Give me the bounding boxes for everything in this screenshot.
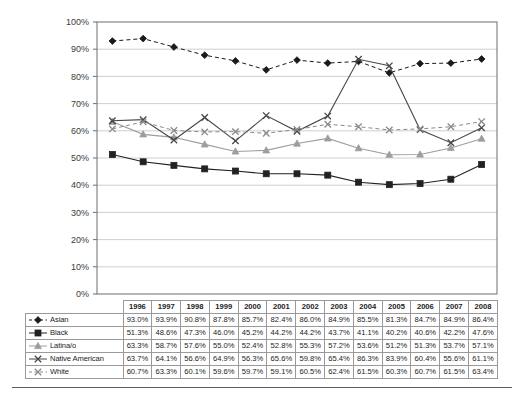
legend-row-white: White <box>26 366 124 379</box>
table-cell: 51.3% <box>411 340 440 353</box>
table-cell: 40.6% <box>411 327 440 340</box>
gridlines <box>97 49 497 267</box>
table-col-header-2003: 2003 <box>325 301 354 314</box>
table-cell: 60.3% <box>382 366 411 379</box>
data-point-marker <box>324 60 331 67</box>
table-cell: 86.3% <box>353 353 382 366</box>
table-cell: 47.3% <box>181 327 210 340</box>
y-axis-tick-label: 50% <box>71 153 89 163</box>
data-point-marker <box>35 330 41 336</box>
table-cell: 42.2% <box>440 327 469 340</box>
table-cell: 64.1% <box>152 353 181 366</box>
line-chart: 0%10%20%30%40%50%60%70%80%90%100% <box>0 0 524 300</box>
series-line <box>112 154 481 184</box>
table-cell: 87.8% <box>209 314 238 327</box>
table-cell: 63.4% <box>469 366 498 379</box>
data-point-marker <box>294 171 300 177</box>
data-point-marker <box>263 66 270 73</box>
y-axis-tick-labels: 0%10%20%30%40%50%60%70%80%90%100% <box>66 17 89 299</box>
data-point-marker <box>417 60 424 67</box>
data-point-marker <box>140 35 147 42</box>
data-series-group <box>109 35 485 187</box>
y-axis-tick-label: 20% <box>71 235 89 245</box>
y-axis-tick-label: 30% <box>71 208 89 218</box>
table-col-header-2007: 2007 <box>440 301 469 314</box>
table-col-header-1999: 1999 <box>209 301 238 314</box>
y-axis-ticks <box>93 22 97 294</box>
table-cell: 59.7% <box>238 366 267 379</box>
table-col-header-2008: 2008 <box>469 301 498 314</box>
data-point-marker <box>35 317 42 324</box>
table-row: Asian93.0%93.9%90.8%87.8%85.7%82.4%86.0%… <box>26 314 498 327</box>
data-point-marker <box>140 159 146 165</box>
legend-key-icon <box>28 328 48 338</box>
legend-label: Black <box>50 329 68 337</box>
data-point-marker <box>478 118 484 124</box>
series-line <box>112 122 481 155</box>
data-point-marker <box>232 168 238 174</box>
table-cell: 60.7% <box>411 366 440 379</box>
table-cell: 59.6% <box>209 366 238 379</box>
table-cell: 55.0% <box>209 340 238 353</box>
table-cell: 93.9% <box>152 314 181 327</box>
table-row: Native American63.7%64.1%56.6%64.9%56.3%… <box>26 353 498 366</box>
table-cell: 46.0% <box>209 327 238 340</box>
table-cell: 53.6% <box>353 340 382 353</box>
data-point-marker <box>294 57 301 64</box>
y-axis-tick-label: 90% <box>71 44 89 54</box>
table-cell: 81.3% <box>382 314 411 327</box>
data-point-marker <box>417 181 423 187</box>
table-cell: 84.9% <box>440 314 469 327</box>
legend-row-black: Black <box>26 327 124 340</box>
table-cell: 65.6% <box>267 353 296 366</box>
table-cell: 65.4% <box>325 353 354 366</box>
series-native-american <box>109 56 485 146</box>
data-point-marker <box>478 125 484 131</box>
table-cell: 57.1% <box>469 340 498 353</box>
table-cell: 64.9% <box>209 353 238 366</box>
table-cell: 44.2% <box>267 327 296 340</box>
legend-row-asian: Asian <box>26 314 124 327</box>
table-cell: 41.1% <box>353 327 382 340</box>
table-cell: 56.6% <box>181 353 210 366</box>
table-cell: 57.6% <box>181 340 210 353</box>
table-cell: 82.4% <box>267 314 296 327</box>
data-point-marker <box>386 182 392 188</box>
table-cell: 90.8% <box>181 314 210 327</box>
data-point-marker <box>324 135 331 141</box>
data-point-marker <box>232 138 238 144</box>
legend-row-latina-o: Latina/o <box>26 340 124 353</box>
legend-label: White <box>50 368 69 376</box>
data-point-marker <box>201 114 207 120</box>
data-point-marker <box>201 52 208 59</box>
legend-key-icon <box>28 367 48 377</box>
table-cell: 52.8% <box>267 340 296 353</box>
data-point-marker <box>263 171 269 177</box>
table-cell: 51.2% <box>382 340 411 353</box>
legend-marker-icon <box>28 341 48 351</box>
data-point-marker <box>109 151 115 157</box>
table-cell: 61.1% <box>469 353 498 366</box>
table-col-header-2000: 2000 <box>238 301 267 314</box>
y-axis-tick-label: 40% <box>71 180 89 190</box>
table-cell: 93.0% <box>123 314 152 327</box>
table-cell: 85.5% <box>353 314 382 327</box>
legend-label: Asian <box>50 316 69 324</box>
table-cell: 60.4% <box>411 353 440 366</box>
table-cell: 86.0% <box>296 314 325 327</box>
legend-marker-icon <box>28 328 48 338</box>
table-cell: 83.9% <box>382 353 411 366</box>
table-col-header-1996: 1996 <box>123 301 152 314</box>
data-point-marker <box>478 135 485 141</box>
table-header-row: 1996199719981999200020012002200320042005… <box>26 301 498 314</box>
bottom-divider-rule <box>12 387 512 388</box>
table-cell: 52.4% <box>238 340 267 353</box>
table-col-header-2001: 2001 <box>267 301 296 314</box>
data-point-marker <box>232 57 239 64</box>
table-cell: 59.1% <box>267 366 296 379</box>
legend-label: Latina/o <box>50 342 76 350</box>
table-cell: 63.7% <box>123 353 152 366</box>
y-axis-tick-label: 10% <box>71 262 89 272</box>
table-cell: 63.3% <box>152 366 181 379</box>
table-row: Black51.3%48.6%47.3%46.0%45.2%44.2%44.2%… <box>26 327 498 340</box>
